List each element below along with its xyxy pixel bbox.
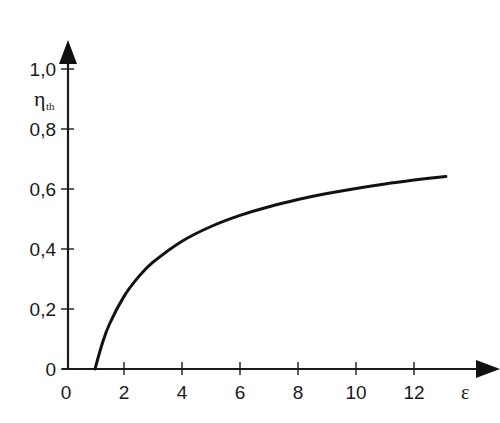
svg-text:η: η — [34, 86, 46, 111]
y-axis — [59, 40, 77, 369]
efficiency-curve — [95, 176, 446, 369]
svg-text:th: th — [46, 100, 55, 112]
x-axis-arrow-icon — [476, 360, 500, 378]
y-tick-label: 0,4 — [30, 239, 57, 260]
x-axis — [62, 360, 500, 378]
y-tick-label: 0,2 — [30, 299, 56, 320]
x-tick-label: 2 — [119, 382, 130, 403]
x-axis-label: ε — [461, 381, 469, 403]
y-axis-arrow-icon — [59, 40, 77, 64]
y-axis-label: η th — [34, 86, 55, 112]
y-tick-label: 0 — [45, 359, 56, 380]
x-tick-label: 10 — [345, 382, 366, 403]
x-tick-label: 6 — [235, 382, 246, 403]
x-tick-label: 12 — [403, 382, 424, 403]
x-tick-label: 4 — [177, 382, 188, 403]
x-tick-label: 8 — [293, 382, 304, 403]
x-tick-label: 0 — [61, 382, 72, 403]
efficiency-chart: 00,20,40,60,81,0 024681012 ε η th — [0, 0, 500, 423]
y-tick-label: 0,8 — [30, 119, 56, 140]
y-tick-label: 0,6 — [30, 179, 56, 200]
y-tick-label: 1,0 — [30, 59, 56, 80]
